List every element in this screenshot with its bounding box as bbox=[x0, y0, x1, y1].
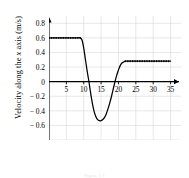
y-tick-label: − 0.4 bbox=[30, 106, 45, 115]
y-tick-label: 0.6 bbox=[36, 33, 45, 42]
y-axis-label-before: Velocity along the bbox=[14, 55, 23, 119]
y-tick-label: 0.2 bbox=[36, 63, 45, 72]
axis-lines bbox=[49, 17, 179, 140]
velocity-curve bbox=[49, 38, 171, 121]
y-tick-label: − 0.6 bbox=[30, 121, 45, 130]
y-axis-label-after: axis (m/s) bbox=[14, 16, 23, 52]
curve-markers bbox=[49, 37, 169, 62]
y-axis-label-variable: x bbox=[14, 52, 23, 56]
velocity-figure: Velocity along the x axis (m/s) 0.80.60.… bbox=[0, 0, 189, 178]
figure-caption: Figure 1-1 bbox=[0, 173, 189, 178]
y-axis-label: Velocity along the x axis (m/s) bbox=[14, 0, 23, 138]
plot-area: 0.80.60.40.20− 0.2− 0.4− 0.6 51015202530… bbox=[49, 16, 181, 140]
gridlines bbox=[49, 16, 181, 140]
y-tick-label: 0 bbox=[41, 77, 45, 86]
tick-marks bbox=[49, 23, 171, 125]
y-tick-label: 0.4 bbox=[36, 48, 45, 57]
y-tick-label: − 0.2 bbox=[30, 92, 45, 101]
y-tick-label: 0.8 bbox=[36, 19, 45, 28]
chart-svg bbox=[49, 16, 181, 140]
